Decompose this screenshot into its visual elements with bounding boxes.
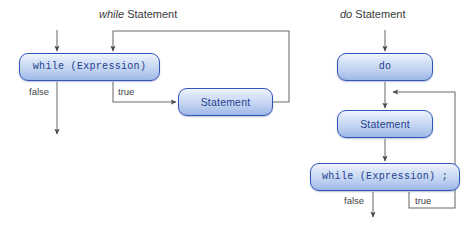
node-do-keyword-label: do [379, 62, 392, 72]
node-do-body-label: Statement [360, 119, 410, 130]
do-statement-title: do Statement [340, 8, 405, 20]
node-do-condition[interactable]: while (Expression) ; [310, 163, 460, 191]
do-statement-title-keyword: do [340, 8, 352, 20]
edge-label-while-false: false [29, 86, 49, 97]
node-while-condition-label: while (Expression) [33, 62, 146, 72]
node-do-condition-label: while (Expression) ; [322, 172, 448, 182]
edge-label-do-false: false [344, 195, 364, 206]
node-while-body[interactable]: Statement [178, 88, 273, 116]
node-do-keyword[interactable]: do [337, 53, 433, 81]
flowchart-figure: while Statement while (Expression) State… [0, 0, 474, 227]
while-statement-title-rest: Statement [124, 8, 177, 20]
while-statement-title-keyword: while [99, 8, 124, 20]
edge-label-while-true: true [118, 86, 134, 97]
node-while-condition[interactable]: while (Expression) [19, 53, 160, 81]
node-do-body[interactable]: Statement [337, 110, 433, 138]
while-statement-title: while Statement [99, 8, 177, 20]
edge-label-do-true: true [415, 195, 431, 206]
node-while-body-label: Statement [201, 97, 251, 108]
do-statement-title-rest: Statement [352, 8, 405, 20]
